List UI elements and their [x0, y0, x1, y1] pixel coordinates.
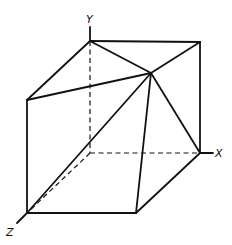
hidden-edge-z-axis — [27, 153, 90, 213]
edge-apex-to-e — [151, 73, 200, 153]
edge-top-back — [90, 41, 200, 42]
hidden-edges — [27, 41, 200, 213]
y-axis-label: Y — [86, 13, 94, 26]
z-axis-extension — [17, 213, 27, 223]
axis-labels: Y X Z — [5, 13, 223, 239]
edge-a-to-apex — [90, 41, 151, 73]
edge-apex-to-g — [136, 73, 151, 213]
x-axis-label: X — [214, 147, 223, 160]
visible-edges — [27, 41, 200, 213]
edge-c-to-apex — [27, 73, 151, 100]
z-axis-label: Z — [5, 226, 14, 239]
edge-apex-to-f — [27, 73, 151, 213]
cube-diagram: Y X Z — [0, 0, 232, 245]
edge-b-to-apex — [151, 42, 200, 73]
edge-bottom-right — [136, 153, 200, 213]
edge-top-left — [27, 41, 90, 100]
